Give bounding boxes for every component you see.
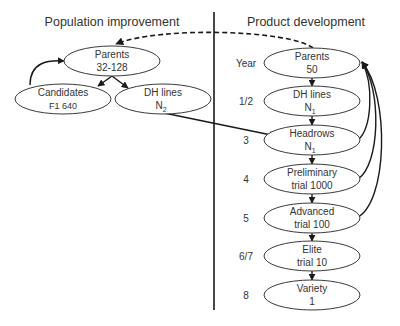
- svg-text:1: 1: [309, 296, 315, 307]
- svg-text:Parents: Parents: [295, 51, 329, 62]
- svg-text:Variety: Variety: [297, 283, 327, 294]
- year-label: 8: [243, 290, 249, 301]
- title-product-development: Product development: [247, 15, 366, 29]
- title-population-improvement: Population improvement: [45, 15, 180, 29]
- breeding-scheme-diagram: Population improvement Product developme…: [0, 0, 400, 326]
- node-product-dh-lines: DH lines N1: [264, 86, 360, 116]
- node-advanced-trial: Advanced trial 100: [264, 203, 360, 233]
- svg-text:DH lines: DH lines: [293, 89, 331, 100]
- recycle-preliminary-to-parents: [358, 62, 376, 179]
- year-label: 6/7: [239, 251, 253, 262]
- svg-text:trial 10: trial 10: [297, 257, 327, 268]
- year-label: 1/2: [239, 96, 253, 107]
- svg-text:Candidates: Candidates: [38, 87, 89, 98]
- node-headrows: Headrows N1: [264, 125, 360, 155]
- svg-text:trial 100: trial 100: [294, 219, 330, 230]
- svg-text:Preliminary: Preliminary: [287, 167, 337, 178]
- year-label: 3: [243, 135, 249, 146]
- arrow-candidates-to-parents: [30, 61, 64, 85]
- year-header: Year: [236, 58, 257, 69]
- node-candidates: Candidates F1 640: [15, 84, 111, 114]
- year-label: 5: [243, 213, 249, 224]
- svg-text:50: 50: [306, 64, 318, 75]
- arrow-parents-to-candidates: [98, 76, 112, 86]
- node-population-parents: Parents 32-128: [64, 46, 160, 76]
- svg-text:32-128: 32-128: [96, 62, 128, 73]
- arrow-dhlines-to-headrows: [164, 113, 276, 136]
- year-label: 4: [243, 174, 249, 185]
- svg-text:Parents: Parents: [95, 49, 129, 60]
- node-elite-trial: Elite trial 10: [264, 241, 360, 271]
- node-preliminary-trial: Preliminary trial 1000: [264, 164, 360, 194]
- node-population-dh-lines: DH lines N2: [115, 84, 211, 114]
- svg-text:Advanced: Advanced: [290, 206, 334, 217]
- svg-text:DH lines: DH lines: [144, 87, 182, 98]
- svg-text:trial 1000: trial 1000: [291, 180, 333, 191]
- svg-text:F1 640: F1 640: [49, 101, 77, 111]
- svg-text:Elite: Elite: [302, 244, 322, 255]
- arrow-parents-to-dhlines: [112, 76, 128, 88]
- node-variety: Variety 1: [264, 280, 360, 310]
- svg-text:Headrows: Headrows: [289, 128, 334, 139]
- node-product-parents: Parents 50: [264, 48, 360, 78]
